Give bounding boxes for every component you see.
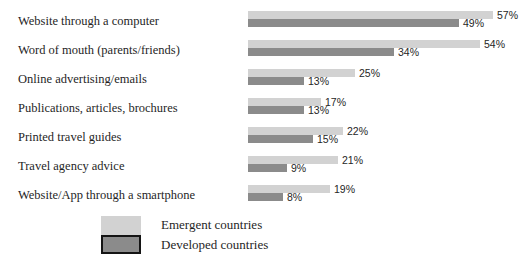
chart-row: Word of mouth (parents/friends) 54% 34%: [0, 35, 528, 64]
bar-developed: 34%: [248, 48, 394, 56]
bar-group: 54% 34%: [248, 40, 480, 56]
bar-developed: 13%: [248, 106, 304, 114]
bar-group: 57% 49%: [248, 11, 493, 27]
legend-label-developed: Developed countries: [161, 235, 268, 255]
bar-emergent: 54%: [248, 40, 480, 48]
legend-label-emergent: Emergent countries: [161, 215, 268, 235]
bar-value-label: 9%: [291, 163, 306, 174]
legend-swatch-emergent: [101, 216, 141, 235]
bar-value-label: 19%: [334, 184, 355, 195]
category-label: Website/App through a smartphone: [18, 188, 195, 202]
category-label: Travel agency advice: [18, 159, 124, 173]
bar-group: 25% 13%: [248, 69, 355, 85]
category-label: Website through a computer: [18, 14, 159, 28]
chart-legend: Emergent countries Developed countries: [101, 216, 401, 262]
grouped-bar-chart: Website through a computer 57% 49% Word …: [0, 0, 528, 276]
bar-value-label: 21%: [342, 155, 363, 166]
bar-value-label: 49%: [463, 18, 484, 29]
bar-value-label: 54%: [484, 39, 505, 50]
bar-emergent: 57%: [248, 11, 493, 19]
chart-row: Printed travel guides 22% 15%: [0, 122, 528, 151]
category-label: Printed travel guides: [18, 130, 121, 144]
bar-group: 17% 13%: [248, 98, 321, 114]
category-label: Publications, articles, brochures: [18, 101, 178, 115]
bar-value-label: 13%: [308, 76, 329, 87]
bar-value-label: 57%: [497, 10, 518, 21]
bar-value-label: 15%: [317, 134, 338, 145]
legend-swatch-developed: [101, 235, 141, 254]
legend-swatches: [101, 216, 141, 254]
bar-developed: 8%: [248, 193, 283, 201]
bar-developed: 9%: [248, 164, 287, 172]
bar-group: 22% 15%: [248, 127, 343, 143]
bar-value-label: 8%: [287, 192, 302, 203]
chart-row: Travel agency advice 21% 9%: [0, 151, 528, 180]
chart-row: Website/App through a smartphone 19% 8%: [0, 180, 528, 209]
bar-value-label: 34%: [398, 47, 419, 58]
bar-developed: 15%: [248, 135, 313, 143]
bar-value-label: 25%: [359, 68, 380, 79]
bar-group: 21% 9%: [248, 156, 338, 172]
legend-texts: Emergent countries Developed countries: [161, 215, 268, 255]
bar-value-label: 22%: [347, 126, 368, 137]
chart-row: Online advertising/emails 25% 13%: [0, 64, 528, 93]
bar-developed: 13%: [248, 77, 304, 85]
bar-emergent: 25%: [248, 69, 355, 77]
category-label: Word of mouth (parents/friends): [18, 43, 180, 57]
bar-value-label: 13%: [308, 105, 329, 116]
category-label: Online advertising/emails: [18, 72, 147, 86]
bar-group: 19% 8%: [248, 185, 330, 201]
chart-row: Website through a computer 57% 49%: [0, 6, 528, 35]
bar-developed: 49%: [248, 19, 459, 27]
chart-row: Publications, articles, brochures 17% 13…: [0, 93, 528, 122]
